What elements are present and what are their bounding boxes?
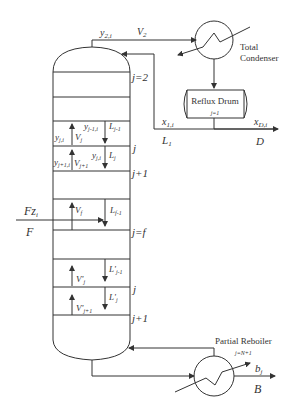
svg-text:L'j: L'j bbox=[108, 292, 118, 303]
svg-text:y2,i: y2,i bbox=[99, 27, 112, 40]
svg-text:Fzi: Fzi bbox=[23, 204, 38, 219]
stage-labels: j=2 j j+1 j=f j j+1 bbox=[130, 71, 148, 324]
reboiler-stage: j=N+1 bbox=[234, 350, 252, 356]
svg-text:V2: V2 bbox=[137, 26, 147, 39]
svg-text:Vf: Vf bbox=[75, 205, 84, 216]
svg-text:j=2: j=2 bbox=[130, 71, 148, 83]
svg-text:j=f: j=f bbox=[130, 226, 147, 238]
reboiler-label: Partial Reboiler bbox=[215, 336, 272, 346]
reflux-drum: Reflux Drum j=1 bbox=[184, 90, 247, 129]
svg-text:L1: L1 bbox=[161, 134, 172, 148]
svg-text:V'j: V'j bbox=[76, 274, 85, 285]
svg-text:xD,i: xD,i bbox=[253, 116, 267, 129]
svg-text:bj: bj bbox=[255, 362, 263, 376]
svg-text:L'j-1: L'j-1 bbox=[108, 264, 123, 275]
total-condenser: Total Condenser bbox=[178, 21, 279, 88]
svg-text:yj-1,i: yj-1,i bbox=[83, 121, 98, 132]
svg-text:yj+1,i: yj+1,i bbox=[53, 157, 70, 168]
trays bbox=[53, 72, 130, 315]
svg-text:Lj-1: Lj-1 bbox=[108, 121, 121, 132]
svg-text:x1,i: x1,i bbox=[161, 116, 174, 129]
svg-text:Lf-1: Lf-1 bbox=[109, 205, 122, 216]
svg-text:yj,i: yj,i bbox=[54, 132, 64, 143]
distillation-column-diagram: y2,i V2 Total Condenser Reflux Drum j=1 … bbox=[0, 0, 296, 417]
svg-text:j: j bbox=[131, 283, 136, 295]
svg-text:Vj+1: Vj+1 bbox=[74, 158, 88, 169]
svg-text:B: B bbox=[254, 382, 262, 396]
svg-text:j: j bbox=[131, 142, 136, 154]
svg-text:F: F bbox=[25, 225, 34, 239]
condenser-label-line1: Total bbox=[240, 42, 259, 52]
partial-reboiler: Partial Reboiler j=N+1 bj B bbox=[92, 336, 275, 396]
svg-text:Lj: Lj bbox=[108, 150, 116, 161]
feed-stage: Fzi F Vf Lf-1 bbox=[16, 199, 122, 239]
svg-text:Vj: Vj bbox=[75, 132, 83, 143]
condenser-label-line2: Condenser bbox=[240, 53, 279, 63]
svg-text:yj,i: yj,i bbox=[91, 150, 101, 161]
svg-text:V'j+1: V'j+1 bbox=[76, 303, 92, 314]
overhead-vapor-line: y2,i V2 bbox=[92, 26, 196, 47]
svg-text:j+1: j+1 bbox=[130, 312, 148, 324]
reflux-drum-label: Reflux Drum bbox=[191, 96, 239, 106]
svg-text:D: D bbox=[255, 135, 264, 147]
reflux-drum-stage: j=1 bbox=[210, 110, 220, 116]
svg-text:j+1: j+1 bbox=[130, 167, 148, 179]
